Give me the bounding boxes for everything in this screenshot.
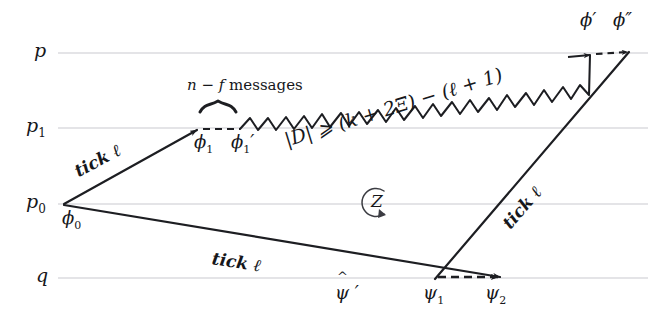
edge-phi0-psi2 (64, 205, 500, 277)
point-label-psi2: ψ2 (485, 284, 506, 306)
axis-label-p0: p0 (26, 192, 46, 215)
point-label-phi-prime: ϕ′ (580, 11, 596, 29)
point-label-phi1-prime: ϕ1′ (231, 133, 254, 155)
edge-zigzag-tip (568, 55, 590, 57)
point-label-psi-hat-prime: ψ ^ ′ (335, 284, 359, 302)
point-label-phi0: ϕ0 (62, 209, 81, 231)
point-label-phi1: ϕ1 (194, 133, 213, 155)
hat-accent-icon: ^ (337, 270, 348, 283)
point-label-phi-double-prime: ϕ″ (613, 11, 632, 29)
figure-canvas: p p1 p0 q ϕ0 ϕ1 ϕ1′ ϕ′ ϕ″ ψ ^ ′ ψ1 ψ2 ti… (0, 0, 653, 330)
brace-messages-icon (200, 101, 236, 112)
guide-lines (58, 53, 648, 278)
point-label-psi1: ψ1 (423, 284, 444, 306)
messages-annotation: n − f messages (187, 78, 303, 93)
axis-label-p: p (34, 41, 46, 60)
axis-label-p1: p1 (26, 116, 46, 139)
edge-phiprime-phidprime (596, 52, 628, 54)
axis-label-q: q (36, 266, 48, 285)
z-label: Z (371, 193, 383, 210)
